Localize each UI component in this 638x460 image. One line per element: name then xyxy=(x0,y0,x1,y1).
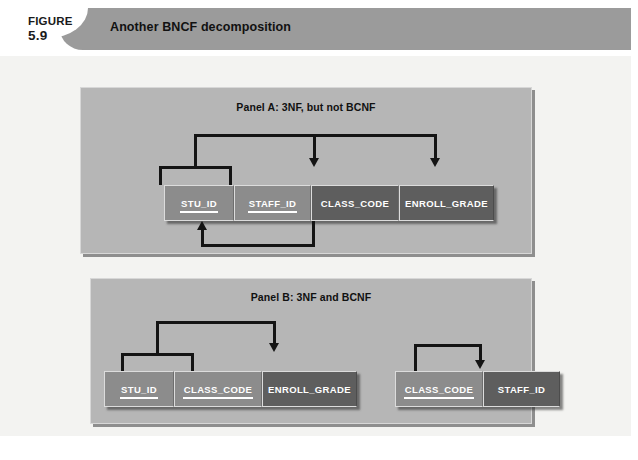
dep-a-stu-id-stem xyxy=(159,168,162,185)
attribute-label: STU_ID xyxy=(181,198,217,209)
figure-container: FIGURE 5.9 Another BNCF decomposition Pa… xyxy=(0,0,638,460)
attribute-label: CLASS_CODE xyxy=(405,384,473,395)
dep-b1-top-bar xyxy=(156,321,276,324)
attribute-box[interactable]: CLASS_CODE xyxy=(395,371,483,407)
dep-a-enroll-grade-drop xyxy=(434,134,437,160)
dep-a-class-code-arrowhead xyxy=(309,158,319,167)
figure-body: Panel A: 3NF, but not BCNF xyxy=(0,56,631,436)
figure-label: FIGURE 5.9 xyxy=(28,14,94,43)
attribute-box[interactable]: STU_ID xyxy=(164,185,234,221)
attribute-label: STAFF_ID xyxy=(249,198,296,209)
dep-b1-class-code-stem xyxy=(191,355,194,371)
panel-b: Panel B: 3NF and BCNF STU_ID CLASS_CODE xyxy=(90,278,532,424)
dep-a-inner-riser xyxy=(194,136,197,168)
dep-a-enroll-grade-arrowhead xyxy=(430,158,440,167)
dep-b1-enroll-grade-drop xyxy=(273,321,276,345)
attribute-label: ENROLL_GRADE xyxy=(268,384,351,395)
figure-label-text: FIGURE xyxy=(28,15,73,27)
figure-header: FIGURE 5.9 Another BNCF decomposition xyxy=(0,8,631,50)
attribute-box[interactable]: CLASS_CODE xyxy=(311,185,399,221)
dep-b2-class-code-stem xyxy=(414,346,417,371)
relation-a1: STU_ID STAFF_ID CLASS_CODE ENROLL_GRADE xyxy=(164,185,494,221)
dep-b1-stu-id-stem xyxy=(121,355,124,371)
dep-b2-top-bar xyxy=(414,344,482,347)
dep-a-below-bar xyxy=(201,244,315,247)
attribute-label: ENROLL_GRADE xyxy=(405,198,488,209)
attribute-label: STU_ID xyxy=(121,384,157,395)
attribute-box[interactable]: STU_ID xyxy=(104,371,174,407)
attribute-box[interactable]: ENROLL_GRADE xyxy=(262,371,357,407)
dep-a-class-code-drop xyxy=(313,134,316,160)
panel-a: Panel A: 3NF, but not BCNF xyxy=(80,87,532,254)
dep-a-staff-id-arrowhead xyxy=(197,221,207,230)
dep-a-below-riser xyxy=(201,230,204,247)
relation-b1: STU_ID CLASS_CODE ENROLL_GRADE xyxy=(104,371,357,407)
dep-a-staff-id-stem xyxy=(229,168,232,185)
attribute-label: STAFF_ID xyxy=(498,384,545,395)
attribute-label: CLASS_CODE xyxy=(321,198,389,209)
attribute-box[interactable]: STAFF_ID xyxy=(483,371,560,407)
panel-b-title: Panel B: 3NF and BCNF xyxy=(91,291,531,303)
attribute-box[interactable]: ENROLL_GRADE xyxy=(399,185,494,221)
figure-number: 5.9 xyxy=(28,29,94,43)
relation-b2: CLASS_CODE STAFF_ID xyxy=(395,371,560,407)
attribute-box[interactable]: CLASS_CODE xyxy=(174,371,262,407)
panel-a-title: Panel A: 3NF, but not BCNF xyxy=(81,101,531,113)
dep-b2-staff-id-arrowhead xyxy=(475,360,485,369)
attribute-label: CLASS_CODE xyxy=(184,384,252,395)
dep-b1-inner-riser xyxy=(156,323,159,355)
figure-caption: Another BNCF decomposition xyxy=(110,20,291,34)
attribute-box[interactable]: STAFF_ID xyxy=(234,185,311,221)
dep-b1-enroll-grade-arrowhead xyxy=(269,343,279,352)
